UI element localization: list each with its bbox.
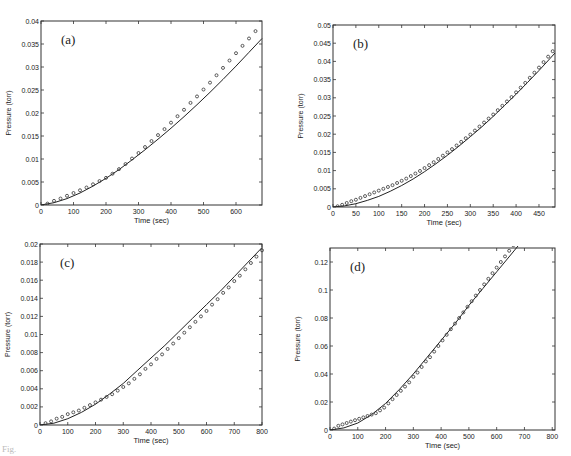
data-point-marker: [374, 412, 377, 415]
x-tick-label: 700: [519, 433, 531, 440]
x-tick-label: 0: [328, 433, 332, 440]
data-point-marker: [345, 422, 348, 425]
data-point-marker: [437, 345, 440, 348]
data-point-marker: [391, 398, 394, 401]
y-tick-label: 0.02: [314, 399, 328, 406]
data-point-marker: [341, 423, 344, 426]
data-point-marker: [520, 233, 523, 236]
data-point-marker: [508, 249, 511, 252]
data-point-marker: [408, 381, 411, 384]
data-point-marker: [358, 417, 361, 420]
data-point-marker: [487, 277, 490, 280]
model-curve: [330, 200, 555, 430]
data-point-marker: [429, 356, 432, 359]
y-tick-label: 0.1: [318, 287, 328, 294]
data-point-marker: [554, 188, 557, 191]
y-axis-label: Pressure (torr): [294, 316, 302, 361]
x-tick-label: 400: [435, 433, 447, 440]
data-point-marker: [541, 205, 544, 208]
data-point-marker: [399, 389, 402, 392]
y-tick-label: 0.04: [314, 371, 328, 378]
data-point-marker: [337, 424, 340, 427]
chart-svg: 010020030040050060070080000.020.040.060.…: [0, 0, 571, 456]
data-point-marker: [379, 409, 382, 412]
data-point-marker: [504, 255, 507, 258]
data-point-marker: [483, 283, 486, 286]
y-tick-label: 0: [324, 427, 328, 434]
x-axis-label: Time (sec): [425, 441, 461, 450]
data-point-marker: [495, 266, 498, 269]
data-point-marker: [404, 385, 407, 388]
y-tick-label: 0.08: [314, 315, 328, 322]
x-tick-label: 200: [380, 433, 392, 440]
data-point-marker: [529, 221, 532, 224]
data-point-marker: [433, 350, 436, 353]
plot-area: 010020030040050060070080000.020.040.060.…: [294, 188, 558, 450]
data-point-marker: [412, 375, 415, 378]
x-tick-label: 800: [546, 433, 558, 440]
data-point-marker: [491, 272, 494, 275]
data-point-marker: [424, 360, 427, 363]
x-tick-label: 600: [491, 433, 503, 440]
data-point-marker: [545, 199, 548, 202]
data-point-marker: [416, 371, 419, 374]
figure: 010020030040050060000.0050.010.0150.020.…: [0, 0, 571, 456]
y-tick-label: 0.06: [314, 343, 328, 350]
x-tick-label: 500: [463, 433, 475, 440]
data-point-marker: [383, 406, 386, 409]
data-point-marker: [395, 394, 398, 397]
data-point-marker: [533, 216, 536, 219]
data-point-marker: [354, 419, 357, 422]
data-point-marker: [549, 193, 552, 196]
data-point-marker: [524, 227, 527, 230]
data-point-marker: [512, 244, 515, 247]
data-point-marker: [516, 238, 519, 241]
data-point-marker: [387, 402, 390, 405]
data-point-marker: [420, 366, 423, 369]
figure-caption: Fig.: [2, 444, 16, 454]
x-tick-label: 300: [407, 433, 419, 440]
y-tick-label: 0.12: [314, 259, 328, 266]
data-point-marker: [499, 261, 502, 264]
data-point-marker: [349, 420, 352, 423]
panel-label: (d): [350, 259, 365, 274]
x-tick-label: 100: [352, 433, 364, 440]
panel-d: 010020030040050060070080000.020.040.060.…: [0, 0, 571, 456]
data-point-marker: [362, 416, 365, 419]
data-point-marker: [537, 210, 540, 213]
